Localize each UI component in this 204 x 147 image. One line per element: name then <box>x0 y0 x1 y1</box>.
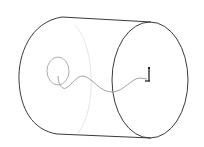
cylinder-drawing <box>0 0 204 147</box>
sweep-profile-circle <box>47 57 69 85</box>
cad-viewport[interactable] <box>0 0 204 147</box>
cylinder-top-edge <box>62 17 151 22</box>
cylinder-front-face <box>112 22 188 138</box>
sweep-path-curve <box>58 76 147 92</box>
cylinder-back-silhouette <box>19 17 62 134</box>
